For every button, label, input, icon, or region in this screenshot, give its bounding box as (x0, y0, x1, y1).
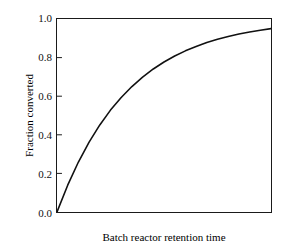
y-axis-tick-marks (57, 58, 62, 174)
y-tick-label-1.0: 1.0 (38, 13, 52, 24)
conversion-curve-svg (57, 19, 271, 212)
y-tick-label-0.4: 0.4 (38, 130, 52, 141)
y-tick-label-0.2: 0.2 (38, 169, 52, 180)
y-tick-label-0.8: 0.8 (38, 52, 52, 63)
conversion-curve (57, 29, 271, 212)
chart-figure: 1.0 0.8 0.6 0.4 0.2 0.0 Fraction convert… (0, 0, 292, 252)
y-tick-label-0.6: 0.6 (38, 91, 52, 102)
plot-area (56, 18, 272, 213)
y-tick-label-0.0: 0.0 (38, 208, 52, 219)
x-axis-title: Batch reactor retention time (56, 231, 272, 244)
y-axis-title: Fraction converted (22, 18, 36, 213)
